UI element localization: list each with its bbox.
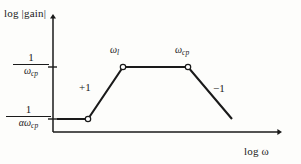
slope-label-positive-one: +1	[79, 82, 91, 93]
x-axis-title: log ω	[244, 146, 269, 157]
y-tick-upper-denominator-subscript: cp	[31, 68, 38, 77]
slope-label-negative-one: −1	[213, 83, 225, 94]
breakpoint-marker-2	[120, 64, 125, 69]
gain-plot-figure: log |gain| log ω 1 ωcp 1 αωcp ωl ωcp +1 …	[0, 0, 301, 164]
y-tick-lower-denominator: αωcp	[6, 118, 51, 130]
omega-l-subscript: l	[117, 48, 119, 57]
y-tick-lower-denominator-subscript: cp	[31, 120, 38, 129]
breakpoint-marker-3	[185, 64, 190, 69]
y-tick-upper-denominator-base: ω	[24, 65, 31, 76]
omega-l-base: ω	[110, 44, 117, 55]
plot-canvas	[0, 0, 301, 164]
gain-asymptote-polyline	[57, 67, 232, 119]
y-tick-upper-numerator: 1	[13, 52, 49, 64]
corner-frequency-label-omega-l: ωl	[110, 45, 119, 56]
breakpoint-marker-1	[85, 116, 90, 121]
gain-curve	[57, 64, 232, 121]
y-axis-title: log |gain|	[4, 8, 46, 19]
omega-cp-base: ω	[175, 44, 182, 55]
corner-frequency-label-omega-cp: ωcp	[175, 45, 189, 56]
y-tick-lower-denominator-base: αω	[19, 117, 31, 128]
omega-cp-subscript: cp	[182, 48, 189, 57]
y-tick-lower-numerator: 1	[6, 104, 51, 116]
y-tick-label-lower: 1 αωcp	[6, 104, 51, 129]
y-tick-label-upper: 1 ωcp	[13, 52, 49, 77]
axis-lines	[53, 17, 279, 132]
y-tick-upper-denominator: ωcp	[13, 66, 49, 78]
